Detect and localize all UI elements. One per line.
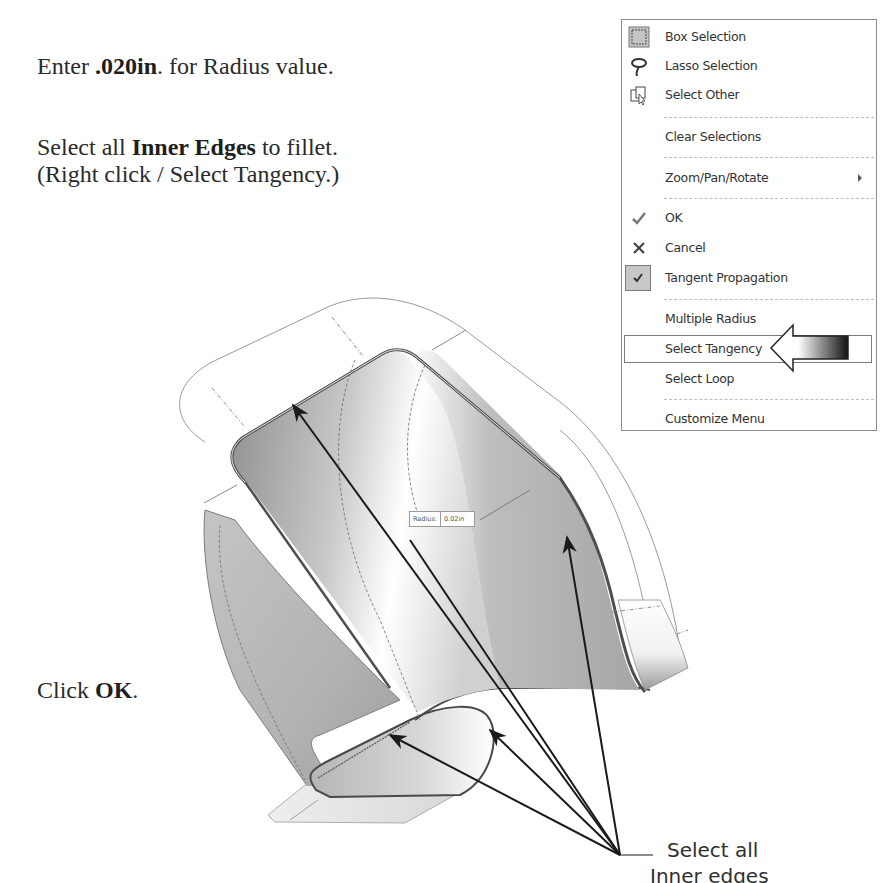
lasso-icon: [628, 55, 650, 77]
menu-item-multiple-radius[interactable]: Multiple Radius: [622, 306, 876, 332]
menu-separator: [664, 198, 874, 199]
radius-label: Radius:: [410, 512, 441, 526]
menu-item-select-tangency[interactable]: Select Tangency: [622, 336, 876, 362]
menu-item-box-selection[interactable]: Box Selection: [622, 24, 876, 50]
menu-separator: [664, 399, 874, 400]
box-selection-icon: [628, 26, 650, 48]
menu-item-tangent-propagation[interactable]: Tangent Propagation: [622, 265, 876, 291]
menu-item-ok[interactable]: OK: [622, 205, 876, 231]
radius-input-tag[interactable]: Radius: 0.02in: [409, 511, 475, 527]
menu-item-lasso-selection[interactable]: Lasso Selection: [622, 53, 876, 79]
menu-item-cancel[interactable]: Cancel: [622, 235, 876, 261]
menu-item-select-loop[interactable]: Select Loop: [622, 366, 876, 392]
callout-select-all: Select all: [667, 836, 758, 864]
submenu-arrow-icon: [858, 174, 862, 182]
menu-item-zoom-pan-rotate[interactable]: Zoom/Pan/Rotate: [622, 165, 876, 191]
menu-item-customize-menu[interactable]: Customize Menu: [622, 406, 876, 432]
menu-separator: [664, 157, 874, 158]
x-icon: [628, 237, 650, 259]
callout-inner-edges: Inner edges: [650, 862, 769, 883]
context-menu: Box Selection Lasso Selection Select Oth…: [621, 19, 877, 431]
menu-item-clear-selections[interactable]: Clear Selections: [622, 124, 876, 150]
radius-value[interactable]: 0.02in: [441, 512, 474, 526]
menu-separator: [664, 299, 874, 300]
select-other-icon: [628, 84, 650, 106]
checkmark-icon: [628, 207, 650, 229]
menu-separator: [664, 117, 874, 118]
checked-checkbox-icon: [625, 265, 651, 291]
menu-item-select-other[interactable]: Select Other: [622, 82, 876, 108]
